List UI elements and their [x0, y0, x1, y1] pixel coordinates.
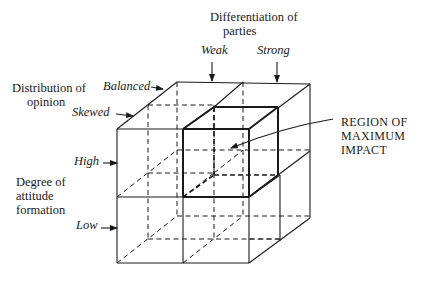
distribution-axis-title-line1: Distribution of — [12, 82, 86, 95]
level-high: High — [74, 155, 99, 168]
attitude-axis-title-line3: formation — [16, 204, 65, 217]
callout-line2: MAXIMUM — [341, 130, 405, 142]
callout-leader-arrow — [231, 119, 333, 148]
skewed-arrow — [116, 114, 133, 116]
differentiation-axis-title-line1: Differentiation of — [210, 11, 298, 24]
callout-line3: IMPACT — [341, 144, 387, 156]
level-skewed: Skewed — [72, 106, 109, 119]
level-weak: Weak — [201, 44, 228, 57]
attitude-axis-title-line2: attitude — [16, 190, 54, 203]
attitude-axis-title-line1: Degree of — [16, 176, 66, 189]
differentiation-axis-title-line2: parties — [223, 25, 256, 38]
region-cube-hidden-edges — [183, 107, 278, 197]
level-strong: Strong — [257, 44, 290, 57]
balanced-arrow — [151, 87, 163, 89]
callout-line1: REGION OF — [341, 116, 407, 128]
region-of-maximum-impact-cube — [183, 107, 278, 197]
cube-diagram: Differentiation of parties Weak Strong D… — [0, 0, 422, 281]
level-low: Low — [76, 219, 98, 232]
level-balanced: Balanced — [103, 80, 150, 93]
distribution-axis-title-line2: opinion — [27, 96, 65, 109]
